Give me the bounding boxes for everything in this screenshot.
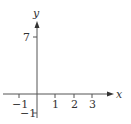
coordinate-plane: x y −1 1 2 3 7 −1	[0, 0, 131, 124]
y-tick-label-neg1: −1	[20, 107, 36, 120]
y-axis-label: y	[32, 7, 40, 20]
x-tick-label-1: 1	[52, 98, 59, 111]
x-axis-arrow-icon	[107, 92, 114, 97]
x-tick-label-3: 3	[89, 98, 96, 111]
y-tick-label-7: 7	[23, 31, 30, 44]
y-axis-arrow-icon	[35, 21, 40, 28]
x-axis-label: x	[116, 88, 123, 101]
x-tick-label-2: 2	[71, 98, 78, 111]
